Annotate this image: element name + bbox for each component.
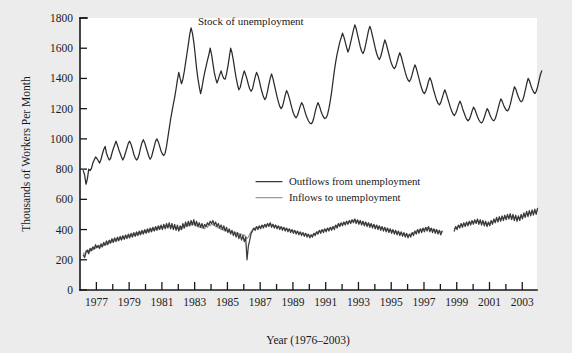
y-axis-tick-label: 600 bbox=[56, 193, 74, 205]
y-axis-tick-label: 1600 bbox=[50, 42, 73, 54]
x-axis-tick-label: 1981 bbox=[150, 296, 173, 308]
y-axis-tick-label: 1800 bbox=[50, 12, 73, 24]
x-axis-tick-label: 1999 bbox=[445, 296, 468, 308]
x-axis-title: Year (1976–2003) bbox=[266, 334, 350, 347]
chart-figure-page: 0200400600800100012001400160018001977197… bbox=[0, 0, 572, 353]
x-axis-tick-label: 2001 bbox=[478, 296, 501, 308]
stock-of-unemployment-annotation: Stock of unemployment bbox=[198, 15, 304, 27]
x-axis-tick-label: 1987 bbox=[249, 296, 272, 308]
unemployment-flows-chart: 0200400600800100012001400160018001977197… bbox=[0, 0, 572, 353]
chart-svg-canvas: 0200400600800100012001400160018001977197… bbox=[0, 0, 572, 353]
y-axis-tick-label: 200 bbox=[56, 254, 74, 266]
legend-label-outflows: Outflows from unemployment bbox=[289, 175, 420, 187]
y-axis-tick-label: 1000 bbox=[50, 133, 73, 145]
x-axis-tick-label: 1983 bbox=[183, 296, 206, 308]
legend-label-inflows: Inflows to unemployment bbox=[289, 191, 401, 203]
y-axis-tick-label: 800 bbox=[56, 163, 74, 175]
y-axis-tick-label: 0 bbox=[67, 284, 73, 296]
y-axis-tick-label: 400 bbox=[56, 224, 74, 236]
x-axis-tick-label: 1989 bbox=[281, 296, 304, 308]
x-axis-tick-label: 1977 bbox=[85, 296, 108, 308]
x-axis-tick-label: 1985 bbox=[216, 296, 239, 308]
y-axis-tick-label: 1200 bbox=[50, 103, 73, 115]
x-axis-tick-label: 2003 bbox=[511, 296, 534, 308]
x-axis-tick-label: 1991 bbox=[314, 296, 337, 308]
x-axis-tick-label: 1993 bbox=[347, 296, 370, 308]
x-axis-tick-label: 1995 bbox=[380, 296, 403, 308]
x-axis-tick-label: 1979 bbox=[118, 296, 141, 308]
y-axis-title: Thousands of Workers Per Month bbox=[20, 76, 32, 232]
y-axis-tick-label: 1400 bbox=[50, 72, 73, 84]
x-axis-tick-label: 1997 bbox=[412, 296, 435, 308]
